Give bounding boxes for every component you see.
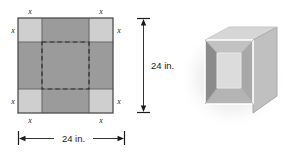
label-x-top-left: x bbox=[27, 7, 32, 16]
vertical-dimension: 24 in. bbox=[137, 19, 174, 113]
label-x-top-right: x bbox=[98, 7, 103, 16]
corner-square-top-right bbox=[89, 18, 113, 42]
corner-square-bottom-left bbox=[18, 89, 42, 113]
open-box-construction-figure: x x x x x x x x 24 in. bbox=[0, 0, 300, 153]
label-x-left-top: x bbox=[10, 26, 15, 35]
corner-square-top-left bbox=[18, 18, 42, 42]
label-x-right-top: x bbox=[116, 26, 121, 35]
vdim-arrow-down bbox=[141, 106, 146, 113]
label-x-bottom-left: x bbox=[27, 116, 32, 125]
label-x-right-bottom: x bbox=[116, 97, 121, 106]
vdim-arrow-up bbox=[141, 19, 146, 26]
figure-svg: x x x x x x x x 24 in. bbox=[0, 0, 300, 153]
cardboard-sheet-diagram: x x x x x x x x bbox=[10, 7, 121, 125]
horizontal-dimension: 24 in. bbox=[19, 131, 125, 145]
hdim-arrow-left bbox=[19, 136, 26, 141]
label-x-left-bottom: x bbox=[10, 97, 15, 106]
folded-open-box bbox=[178, 26, 286, 130]
horizontal-dimension-label: 24 in. bbox=[62, 133, 85, 144]
box-inner-bottom bbox=[217, 53, 241, 88]
label-x-bottom-right: x bbox=[98, 116, 103, 125]
vertical-dimension-label: 24 in. bbox=[151, 60, 174, 71]
corner-square-bottom-right bbox=[89, 89, 113, 113]
hdim-arrow-right bbox=[118, 136, 125, 141]
